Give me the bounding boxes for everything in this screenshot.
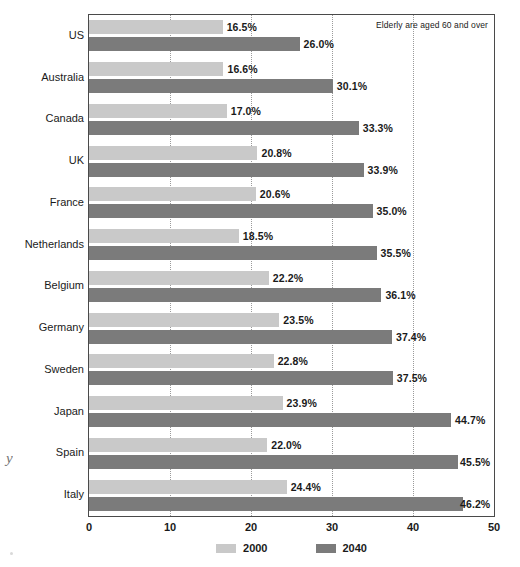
bars-layer: 16.5%26.0%16.6%30.1%17.0%33.3%20.8%33.9%… (89, 15, 494, 516)
category-label-australia: Australia (0, 71, 84, 83)
bar-netherlands-2000[interactable] (89, 229, 239, 243)
chart-figure: USAustraliaCanadaUKFranceNetherlandsBelg… (0, 0, 520, 567)
bar-value-label: 17.0% (231, 105, 261, 117)
category-axis-labels: USAustraliaCanadaUKFranceNetherlandsBelg… (0, 14, 84, 517)
legend-item-2000[interactable]: 2000 (216, 542, 267, 554)
bar-group: 17.0%33.3% (89, 99, 494, 141)
bar-value-label: 24.4% (291, 481, 321, 493)
bar-germany-2040[interactable] (89, 330, 392, 344)
bar-us-2040[interactable] (89, 37, 300, 51)
category-label-netherlands: Netherlands (0, 238, 84, 250)
category-label-us: US (0, 29, 84, 41)
bar-row: 37.4% (89, 330, 494, 344)
bar-value-label: 22.2% (273, 272, 303, 284)
bar-spain-2000[interactable] (89, 438, 267, 452)
bar-value-label: 35.0% (377, 205, 407, 217)
bar-uk-2040[interactable] (89, 163, 364, 177)
bar-canada-2000[interactable] (89, 104, 227, 118)
legend-swatch-icon-2000 (216, 544, 236, 553)
bar-value-label: 33.3% (363, 122, 393, 134)
bar-value-label: 22.0% (271, 439, 301, 451)
bar-row: 22.8% (89, 354, 494, 368)
plot-area: 16.5%26.0%16.6%30.1%17.0%33.3%20.8%33.9%… (88, 14, 495, 517)
bar-row: 44.7% (89, 413, 494, 427)
bar-group: 22.0%45.5% (89, 433, 494, 475)
bar-australia-2040[interactable] (89, 79, 333, 93)
bar-belgium-2040[interactable] (89, 288, 381, 302)
bar-value-label: 23.9% (287, 397, 317, 409)
bar-australia-2000[interactable] (89, 62, 223, 76)
bar-row: 45.5% (89, 455, 494, 469)
bar-canada-2040[interactable] (89, 121, 359, 135)
bar-sweden-2040[interactable] (89, 371, 393, 385)
bar-spain-2040[interactable] (89, 455, 458, 469)
bar-row: 33.9% (89, 163, 494, 177)
bar-value-label: 44.7% (455, 414, 485, 426)
bar-row: 26.0% (89, 37, 494, 51)
category-label-italy: Italy (0, 488, 84, 500)
category-label-japan: Japan (0, 405, 84, 417)
bar-value-label: 26.0% (304, 38, 334, 50)
bar-italy-2040[interactable] (89, 497, 463, 511)
legend-label-2040: 2040 (343, 542, 367, 554)
category-label-belgium: Belgium (0, 279, 84, 291)
bar-value-label: 18.5% (243, 230, 273, 242)
bar-group: 16.6%30.1% (89, 57, 494, 99)
bar-value-label: 16.6% (227, 63, 257, 75)
bar-row: 23.9% (89, 396, 494, 410)
bar-sweden-2000[interactable] (89, 354, 274, 368)
bar-value-label: 46.2% (460, 498, 490, 510)
bar-row: 17.0% (89, 104, 494, 118)
category-label-france: France (0, 196, 84, 208)
bar-italy-2000[interactable] (89, 480, 287, 494)
category-label-sweden: Sweden (0, 363, 84, 375)
bar-us-2000[interactable] (89, 20, 223, 34)
legend-item-2040[interactable]: 2040 (316, 542, 367, 554)
bar-row: 46.2% (89, 497, 494, 511)
bar-row: 22.2% (89, 271, 494, 285)
bar-germany-2000[interactable] (89, 313, 279, 327)
bar-value-label: 33.9% (368, 164, 398, 176)
bar-group: 23.5%37.4% (89, 307, 494, 349)
margin-scan-artifact: y (6, 450, 13, 467)
x-tick-20: 20 (245, 521, 257, 533)
bar-row: 22.0% (89, 438, 494, 452)
bar-value-label: 20.6% (260, 188, 290, 200)
bar-row: 23.5% (89, 313, 494, 327)
bar-value-label: 16.5% (227, 21, 257, 33)
bar-france-2040[interactable] (89, 204, 373, 218)
x-tick-30: 30 (326, 521, 338, 533)
bar-japan-2040[interactable] (89, 413, 451, 427)
chart-legend: 2000 2040 (88, 538, 495, 558)
bar-group: 20.8%33.9% (89, 140, 494, 182)
bar-value-label: 20.8% (261, 147, 291, 159)
bar-row: 24.4% (89, 480, 494, 494)
bar-value-label: 37.5% (397, 372, 427, 384)
bar-row: 16.6% (89, 62, 494, 76)
bar-row: 20.6% (89, 187, 494, 201)
bar-group: 22.8%37.5% (89, 349, 494, 391)
bar-group: 18.5%35.5% (89, 224, 494, 266)
bar-value-label: 37.4% (396, 331, 426, 343)
x-axis-tick-labels: 01020304050 (88, 517, 495, 539)
bar-group: 22.2%36.1% (89, 266, 494, 308)
bar-row: 35.0% (89, 204, 494, 218)
bar-japan-2000[interactable] (89, 396, 283, 410)
bar-value-label: 45.5% (460, 456, 490, 468)
x-tick-10: 10 (164, 521, 176, 533)
category-label-uk: UK (0, 154, 84, 166)
category-label-canada: Canada (0, 112, 84, 124)
bar-value-label: 22.8% (278, 355, 308, 367)
bar-france-2000[interactable] (89, 187, 256, 201)
bar-value-label: 23.5% (283, 314, 313, 326)
bar-row: 30.1% (89, 79, 494, 93)
legend-swatch-icon-2040 (316, 544, 336, 553)
bar-row: 36.1% (89, 288, 494, 302)
bar-belgium-2000[interactable] (89, 271, 269, 285)
bar-group: 24.4%46.2% (89, 474, 494, 516)
bar-uk-2000[interactable] (89, 146, 257, 160)
x-tick-40: 40 (407, 521, 419, 533)
bar-netherlands-2040[interactable] (89, 246, 377, 260)
bar-group: 23.9%44.7% (89, 391, 494, 433)
bar-row: 37.5% (89, 371, 494, 385)
